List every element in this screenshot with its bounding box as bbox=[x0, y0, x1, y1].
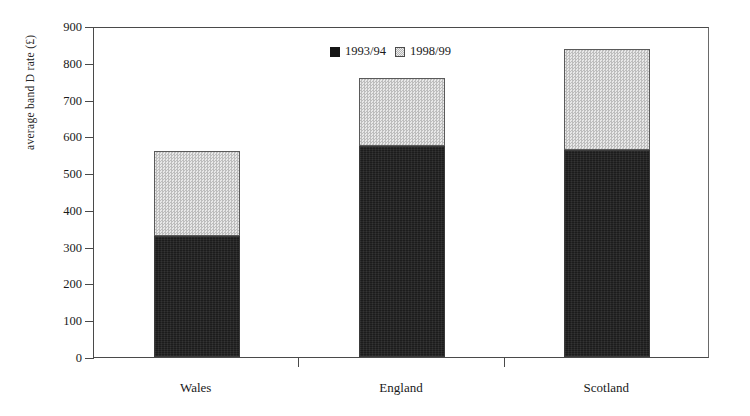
bar-segment-1998-99 bbox=[564, 49, 650, 151]
bar-segment-1993-94 bbox=[154, 236, 240, 357]
chart-legend: 1993/941998/99 bbox=[330, 44, 451, 59]
y-axis-tick-mark bbox=[85, 358, 94, 359]
y-axis-tick-label: 300 bbox=[0, 240, 82, 255]
y-axis-tick-label: 600 bbox=[0, 130, 82, 145]
bar-stack bbox=[359, 26, 445, 357]
bar-segment-1998-99 bbox=[154, 151, 240, 236]
bar-segment-1993-94 bbox=[359, 146, 445, 357]
y-axis-tick-label: 200 bbox=[0, 277, 82, 292]
legend-label: 1993/94 bbox=[345, 44, 386, 59]
x-axis-tick-mark bbox=[298, 358, 299, 367]
light-checker-swatch bbox=[395, 47, 405, 57]
bar-segment-1993-94 bbox=[564, 150, 650, 357]
legend-label: 1998/99 bbox=[410, 44, 451, 59]
y-axis-tick-label: 800 bbox=[0, 56, 82, 71]
x-axis-category-label: England bbox=[379, 380, 422, 396]
y-axis-tick-label: 0 bbox=[0, 351, 82, 366]
plot-area bbox=[93, 27, 709, 358]
x-axis-category-label: Scotland bbox=[584, 380, 630, 396]
x-axis-tick-mark bbox=[504, 358, 505, 367]
y-axis-tick-label: 100 bbox=[0, 314, 82, 329]
y-axis-tick-label: 700 bbox=[0, 93, 82, 108]
y-axis-tick-label: 900 bbox=[0, 20, 82, 35]
bar-stack bbox=[564, 26, 650, 357]
stacked-bar-chart: average band D rate (£) 0100200300400500… bbox=[0, 0, 750, 416]
dark-square-swatch bbox=[330, 47, 340, 57]
y-axis-tick-label: 500 bbox=[0, 167, 82, 182]
x-axis-category-label: Wales bbox=[180, 380, 211, 396]
bar-segment-1998-99 bbox=[359, 78, 445, 145]
bar-stack bbox=[154, 26, 240, 357]
legend-entry: 1993/94 bbox=[330, 44, 386, 59]
y-axis-tick-label: 400 bbox=[0, 203, 82, 218]
legend-entry: 1998/99 bbox=[395, 44, 451, 59]
